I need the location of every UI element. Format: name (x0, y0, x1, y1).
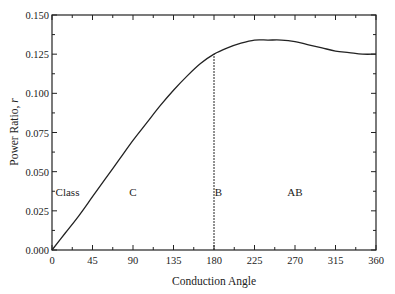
x-tick-label: 360 (368, 255, 384, 266)
x-tick-label: 90 (128, 255, 139, 266)
annotation-b: B (215, 186, 222, 198)
annotation-ab: AB (287, 186, 302, 198)
y-axis-label: Power Ratio, r (8, 98, 21, 166)
x-tick-label: 45 (87, 255, 98, 266)
x-axis-label: Conduction Angle (172, 275, 256, 288)
y-tick-label: 0.050 (25, 167, 49, 178)
x-tick-label: 315 (328, 255, 344, 266)
annotation-c: C (129, 186, 136, 198)
y-tick-label: 0.150 (25, 10, 49, 21)
power-ratio-chart: 0.0000.0250.0500.0750.1000.1250.150 0459… (0, 0, 395, 294)
y-tick-label: 0.000 (25, 245, 49, 256)
x-tick-label: 135 (166, 255, 182, 266)
y-tick-label: 0.025 (25, 206, 49, 217)
annotation-class: Class (56, 186, 80, 198)
x-tick-label: 180 (206, 255, 222, 266)
y-tick-label: 0.075 (25, 128, 49, 139)
y-tick-label: 0.125 (25, 49, 49, 60)
y-tick-label: 0.100 (25, 88, 49, 99)
x-tick-label: 225 (247, 255, 263, 266)
y-axis-ticks: 0.0000.0250.0500.0750.1000.1250.150 (25, 10, 376, 256)
x-tick-label: 270 (287, 255, 303, 266)
x-tick-label: 0 (49, 255, 54, 266)
